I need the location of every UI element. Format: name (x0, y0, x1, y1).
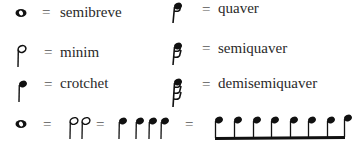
note-label-quaver: quaver (218, 0, 259, 16)
equals-sign: = (202, 1, 210, 17)
equals-sign: = (44, 44, 52, 60)
minim-note-icon (15, 44, 27, 68)
eight-beamed-quavers-icon (214, 114, 350, 142)
equals-sign: = (42, 4, 50, 20)
semibreve-note-icon (15, 8, 27, 18)
four-crotchets-icon (116, 116, 168, 140)
note-label-semibreve: semibreve (60, 4, 122, 20)
equals-sign: = (96, 116, 104, 132)
equals-sign: = (202, 40, 210, 56)
semibreve-note-icon (15, 119, 27, 129)
note-label-minim: minim (60, 44, 99, 60)
note-label-demisemiquaver: demisemiquaver (218, 75, 317, 91)
equals-sign: = (202, 76, 210, 92)
equals-sign: = (44, 76, 52, 92)
two-minims-icon (67, 116, 91, 140)
equals-sign: = (43, 116, 51, 132)
equals-sign: = (185, 116, 193, 132)
note-label-crotchet: crotchet (60, 75, 108, 91)
note-label-semiquaver: semiquaver (218, 40, 287, 56)
semiquaver-note-icon (171, 42, 183, 66)
demisemiquaver-note-icon (171, 78, 183, 108)
quaver-note-icon (171, 2, 183, 24)
crotchet-note-icon (16, 79, 28, 103)
